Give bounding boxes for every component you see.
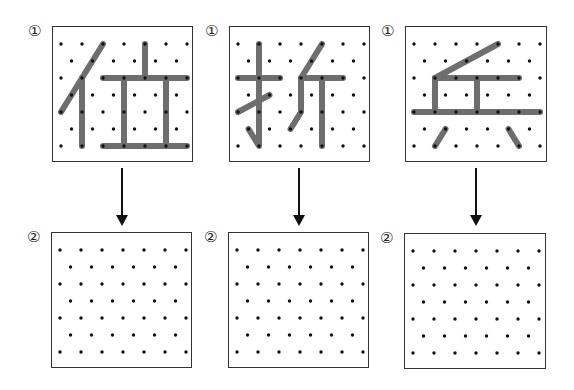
peg-dot [432, 351, 435, 354]
peg-dot [454, 144, 457, 147]
peg-dot [174, 299, 177, 302]
peg-dot [184, 350, 187, 353]
peg-dot [330, 333, 333, 336]
peg-dot [267, 333, 270, 336]
peg-dot [298, 282, 301, 285]
peg-dot [340, 316, 343, 319]
peg-dot [91, 93, 94, 96]
character-stroke [238, 95, 270, 112]
peg-dot [268, 127, 271, 130]
peg-dot [340, 282, 343, 285]
peg-dot [474, 351, 477, 354]
peg-dot [90, 333, 93, 336]
peg-dot [278, 144, 281, 147]
peg-dot [516, 351, 519, 354]
peg-dot [58, 316, 61, 319]
peg-dot [486, 93, 489, 96]
peg-dot [443, 300, 446, 303]
peg-dot [111, 299, 114, 302]
peg-dot [247, 93, 250, 96]
peg-dot [143, 76, 146, 79]
geoboard-blank-3 [404, 233, 546, 369]
peg-dot [298, 350, 301, 353]
peg-dot [174, 333, 177, 336]
peg-dot [412, 110, 415, 113]
peg-dot [70, 127, 73, 130]
peg-dot [59, 110, 62, 113]
peg-dot [351, 265, 354, 268]
peg-dot [256, 350, 259, 353]
peg-dot [412, 76, 415, 79]
peg-dot [341, 42, 344, 45]
peg-dot [310, 93, 313, 96]
peg-dot [412, 144, 415, 147]
peg-dot [256, 248, 259, 251]
peg-dot [59, 42, 62, 45]
peg-dot [175, 127, 178, 130]
character-stroke [509, 129, 520, 146]
peg-dot [69, 265, 72, 268]
peg-dot [538, 144, 541, 147]
peg-dot [527, 300, 530, 303]
peg-dot [341, 110, 344, 113]
peg-dot [352, 59, 355, 62]
peg-dot [537, 249, 540, 252]
peg-dot [80, 76, 83, 79]
peg-dot [453, 351, 456, 354]
peg-dot [133, 59, 136, 62]
peg-dot [277, 350, 280, 353]
geoboard-example-1 [52, 26, 193, 162]
peg-dot [411, 283, 414, 286]
peg-dot [185, 110, 188, 113]
label-step-2: ② [204, 230, 217, 245]
peg-dot [267, 299, 270, 302]
peg-dot [70, 59, 73, 62]
peg-dot [185, 42, 188, 45]
peg-dot [454, 42, 457, 45]
peg-dot [411, 351, 414, 354]
peg-dot [486, 59, 489, 62]
peg-dot [289, 93, 292, 96]
peg-dot [331, 93, 334, 96]
peg-dot [184, 248, 187, 251]
peg-dot [288, 299, 291, 302]
peg-dot [163, 282, 166, 285]
peg-dot [79, 282, 82, 285]
peg-dot [288, 333, 291, 336]
down-arrow-icon [469, 168, 483, 226]
peg-dot [90, 265, 93, 268]
peg-dot [485, 334, 488, 337]
peg-dot [235, 248, 238, 251]
peg-dot [362, 42, 365, 45]
peg-dot [153, 333, 156, 336]
peg-dot [143, 42, 146, 45]
peg-dot [298, 316, 301, 319]
peg-dot [423, 59, 426, 62]
peg-dot [464, 300, 467, 303]
peg-dot [362, 144, 365, 147]
peg-dot [474, 249, 477, 252]
peg-dot [163, 350, 166, 353]
peg-dot [422, 334, 425, 337]
peg-dot [101, 110, 104, 113]
peg-dot [235, 282, 238, 285]
peg-dot [340, 248, 343, 251]
dot-grid [229, 233, 367, 366]
peg-dot [465, 93, 468, 96]
peg-dot [277, 316, 280, 319]
peg-dot [153, 299, 156, 302]
peg-dot [433, 76, 436, 79]
dot-grid [405, 234, 544, 367]
peg-dot [506, 266, 509, 269]
peg-dot [453, 249, 456, 252]
peg-dot [464, 334, 467, 337]
peg-dot [257, 110, 260, 113]
peg-dot [454, 110, 457, 113]
peg-dot [422, 300, 425, 303]
peg-dot [112, 93, 115, 96]
peg-dot [516, 249, 519, 252]
geoboard-example-2 [229, 26, 370, 162]
peg-dot [278, 110, 281, 113]
peg-dot [351, 333, 354, 336]
peg-dot [464, 266, 467, 269]
